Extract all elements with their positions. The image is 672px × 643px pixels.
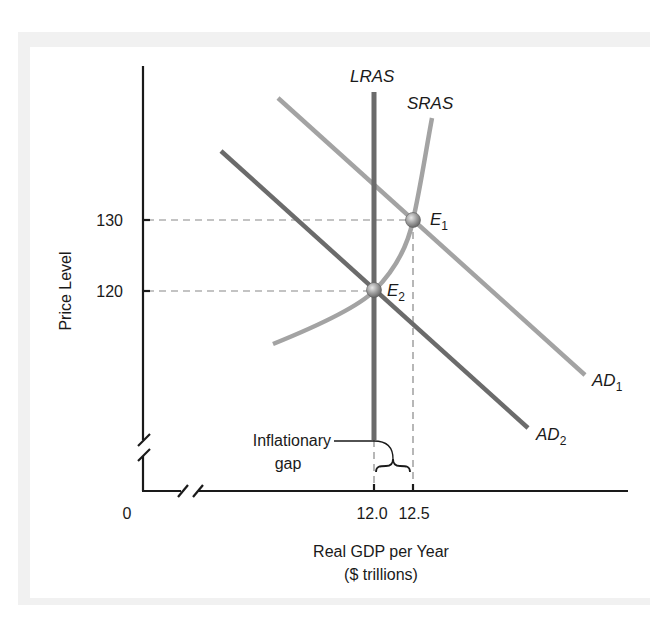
sras-label: SRAS [407,94,454,113]
e2-main: E [387,281,399,300]
y-tick-label-120: 120 [96,283,123,300]
ad2-sub: 2 [560,434,567,448]
x-tick-label-12-5: 12.5 [398,505,429,522]
e1-point [406,213,421,228]
ad2-main: AD [535,425,560,444]
gap-brace-icon [376,459,410,472]
e1-label: E1 [430,210,448,233]
ad1-label: AD1 [591,371,623,394]
ad1-sub: 1 [616,380,623,394]
sras-curve [273,118,432,344]
gap-leader-line [334,441,393,459]
lras-label: LRAS [350,67,395,86]
origin-label: 0 [123,505,132,522]
ad1-main: AD [591,371,616,390]
y-tick-label-130: 130 [96,212,123,229]
e2-point [367,283,382,298]
ad1-curve [278,98,585,375]
ad-as-chart: LRAS SRAS E1 E2 AD1 AD2 130 120 12.0 12.… [0,0,672,643]
x-axis-title-line1: Real GDP per Year [313,543,449,560]
e1-main: E [430,210,442,229]
y-axis-title: Price Level [57,251,74,330]
x-tick-label-12-0: 12.0 [356,505,387,522]
gap-label-line1: Inflationary [253,432,331,449]
e1-sub: 1 [441,219,448,233]
x-axis-title-line2: ($ trillions) [344,566,418,583]
ad2-label: AD2 [535,425,567,448]
e2-sub: 2 [398,290,405,304]
gap-label-line2: gap [275,455,302,472]
